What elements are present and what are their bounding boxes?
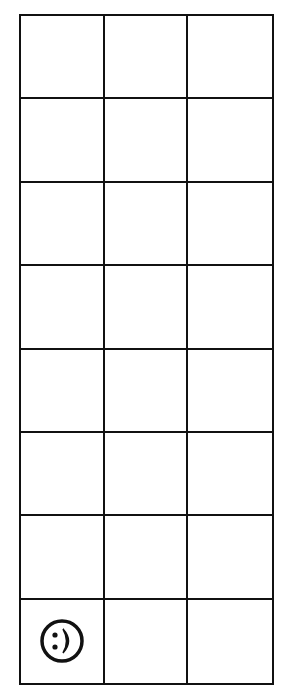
cell-r3-c1[interactable] — [21, 183, 105, 266]
cell-r5-c1[interactable] — [21, 350, 105, 433]
cell-r2-c2[interactable] — [105, 99, 189, 182]
cell-r8-c3[interactable] — [188, 600, 272, 683]
cell-r4-c1[interactable] — [21, 266, 105, 349]
cell-r7-c1[interactable] — [21, 516, 105, 599]
cell-r3-c3[interactable] — [188, 183, 272, 266]
cell-r5-c3[interactable] — [188, 350, 272, 433]
cell-r7-c3[interactable] — [188, 516, 272, 599]
cell-r8-c2[interactable] — [105, 600, 189, 683]
cell-r1-c2[interactable] — [105, 16, 189, 99]
cell-r2-c3[interactable] — [188, 99, 272, 182]
cell-r4-c3[interactable] — [188, 266, 272, 349]
cell-r6-c3[interactable] — [188, 433, 272, 516]
smiley-face-icon[interactable] — [38, 617, 86, 665]
cell-r8-c1[interactable] — [21, 600, 105, 683]
cell-r4-c2[interactable] — [105, 266, 189, 349]
cell-r5-c2[interactable] — [105, 350, 189, 433]
cell-r6-c2[interactable] — [105, 433, 189, 516]
cell-r1-c3[interactable] — [188, 16, 272, 99]
game-board — [19, 14, 274, 685]
cell-r2-c1[interactable] — [21, 99, 105, 182]
cell-r6-c1[interactable] — [21, 433, 105, 516]
cell-r1-c1[interactable] — [21, 16, 105, 99]
cell-r3-c2[interactable] — [105, 183, 189, 266]
cell-r7-c2[interactable] — [105, 516, 189, 599]
